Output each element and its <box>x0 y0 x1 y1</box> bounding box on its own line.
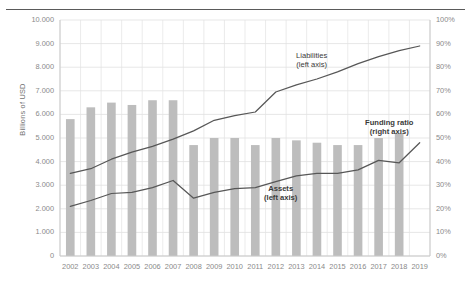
y-tick-left: 2.000 <box>24 204 54 213</box>
bar <box>87 107 96 256</box>
bar <box>230 138 239 256</box>
y-tick-right: 20% <box>436 204 468 213</box>
bar <box>395 133 404 256</box>
bar <box>210 138 219 256</box>
bar <box>189 145 198 256</box>
bar <box>374 138 383 256</box>
y-tick-right: 60% <box>436 109 468 118</box>
bar <box>333 145 342 256</box>
y-tick-right: 30% <box>436 180 468 189</box>
x-tick: 2019 <box>407 262 433 271</box>
bar <box>354 145 363 256</box>
y-tick-right: 100% <box>436 15 468 24</box>
funding-ratio-annotation: Funding ratio (right axis) <box>365 119 414 137</box>
chart-canvas <box>0 0 471 287</box>
y-tick-left: 5.000 <box>24 133 54 142</box>
funding-ratio-annotation-line2: (right axis) <box>365 128 414 137</box>
bar <box>107 103 116 256</box>
y-tick-right: 50% <box>436 133 468 142</box>
bar <box>313 143 322 256</box>
liabilities-annotation: Liabilities (left axis) <box>296 52 327 70</box>
y-tick-left: 9.000 <box>24 39 54 48</box>
assets-annotation-line2: (left axis) <box>264 194 297 203</box>
y-tick-left: 6.000 <box>24 109 54 118</box>
y-tick-left: 10.000 <box>24 15 54 24</box>
y-tick-right: 90% <box>436 39 468 48</box>
y-tick-left: 4.000 <box>24 157 54 166</box>
assets-annotation: Assets (left axis) <box>264 185 297 203</box>
y-tick-left: 7.000 <box>24 86 54 95</box>
bar <box>66 119 75 256</box>
y-tick-right: 70% <box>436 86 468 95</box>
y-tick-left: 3.000 <box>24 180 54 189</box>
y-tick-left: 1.000 <box>24 227 54 236</box>
y-tick-left: 8.000 <box>24 62 54 71</box>
bar <box>128 105 137 256</box>
bar <box>148 100 157 256</box>
y-tick-right: 0% <box>436 251 468 260</box>
bar <box>251 145 260 256</box>
liabilities-annotation-line2: (left axis) <box>296 61 327 70</box>
y-tick-right: 40% <box>436 157 468 166</box>
bar <box>169 100 178 256</box>
y-tick-left: 0 <box>24 251 54 260</box>
y-tick-right: 80% <box>436 62 468 71</box>
chart-container: Billions of USD 01.0002.0003.0004.0005.0… <box>0 0 471 287</box>
y-tick-right: 10% <box>436 227 468 236</box>
